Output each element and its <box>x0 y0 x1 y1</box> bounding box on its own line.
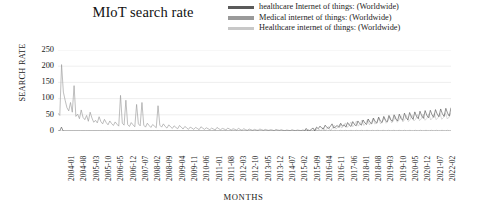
x-tick-label: 2012-03 <box>239 156 248 181</box>
x-tick-label: 2006-05 <box>116 156 125 181</box>
series-line <box>58 113 451 131</box>
x-tick-label: 2015-02 <box>300 156 309 181</box>
legend-item-0[interactable]: healthcare Internet of things: (Worldwid… <box>228 2 486 13</box>
y-tick-label: 100 <box>24 94 54 102</box>
x-tick-label: 2004-08 <box>79 156 88 181</box>
x-tick-label: 2016-11 <box>337 156 346 181</box>
x-tick-label: 2018-01 <box>362 156 371 181</box>
legend-item-2[interactable]: Healthcare internet of things: (Worldwid… <box>228 23 486 34</box>
x-tick-label: 2020-05 <box>411 156 420 181</box>
y-tick-label: 0 <box>24 127 54 135</box>
legend-label: Medical internet of things: (Worldwide) <box>259 13 392 24</box>
y-tick-label: 200 <box>24 62 54 70</box>
x-tick-label: 2013-12 <box>276 156 285 181</box>
chart-title: MIoT search rate <box>58 4 228 21</box>
series-line <box>58 108 451 131</box>
x-tick-label: 2007-07 <box>141 156 150 181</box>
legend-swatch-icon <box>228 6 254 9</box>
x-tick-label: 2016-04 <box>325 156 334 181</box>
y-axis-ticks: 050100150200250 <box>22 0 54 210</box>
legend-swatch-icon <box>228 16 254 19</box>
y-tick-label: 50 <box>24 111 54 119</box>
x-tick-label: 2013-05 <box>264 156 273 181</box>
x-tick-label: 2008-02 <box>153 156 162 181</box>
x-tick-label: 2012-10 <box>251 156 260 181</box>
x-tick-label: 2005-03 <box>92 156 101 181</box>
x-tick-label: 2011-01 <box>215 156 224 181</box>
x-tick-label: 2020-12 <box>423 156 432 181</box>
x-tick-label: 2022-02 <box>448 156 457 181</box>
plot-area <box>58 50 451 131</box>
x-tick-label: 2010-06 <box>202 156 211 181</box>
x-tick-label: 2009-04 <box>178 156 187 181</box>
x-tick-label: 2006-12 <box>129 156 138 181</box>
x-tick-label: 2017-06 <box>350 156 359 181</box>
y-tick-label: 150 <box>24 78 54 86</box>
chart-figure: MIoT search rate healthcare Internet of … <box>0 0 487 210</box>
x-tick-label: 2005-10 <box>104 156 113 181</box>
legend-swatch-icon <box>228 27 254 30</box>
x-tick-label: 2004-01 <box>67 156 76 181</box>
x-tick-label: 2015-09 <box>313 156 322 181</box>
x-tick-label: 2019-10 <box>399 156 408 181</box>
legend-label: healthcare Internet of things: (Worldwid… <box>259 2 399 13</box>
chart-legend: healthcare Internet of things: (Worldwid… <box>228 2 486 34</box>
x-tick-label: 2021-07 <box>436 156 445 181</box>
y-tick-label: 250 <box>24 46 54 54</box>
plot-svg <box>58 50 451 131</box>
x-tick-label: 2008-09 <box>165 156 174 181</box>
x-axis-ticks: 2004-012004-082005-032005-102006-052006-… <box>58 133 451 193</box>
legend-label: Healthcare internet of things: (Worldwid… <box>259 23 400 34</box>
x-tick-label: 2019-03 <box>386 156 395 181</box>
x-axis-label: MONTHS <box>0 192 487 202</box>
x-tick-label: 2018-08 <box>374 156 383 181</box>
x-tick-label: 2011-08 <box>227 156 236 181</box>
x-tick-label: 2009-11 <box>190 156 199 181</box>
x-tick-label: 2014-07 <box>288 156 297 181</box>
legend-item-1[interactable]: Medical internet of things: (Worldwide) <box>228 13 486 24</box>
